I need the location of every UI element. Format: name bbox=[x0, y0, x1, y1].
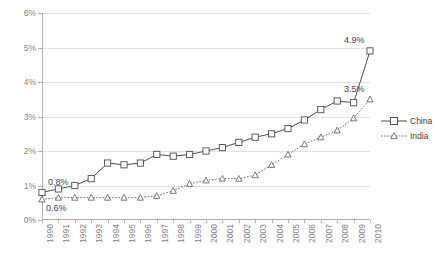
data-point-marker bbox=[367, 48, 373, 54]
data-point-marker bbox=[137, 160, 143, 166]
series-china bbox=[39, 48, 373, 196]
data-point-marker bbox=[285, 151, 291, 157]
data-point-marker bbox=[269, 131, 275, 137]
data-label: 3.5% bbox=[344, 85, 365, 94]
data-point-marker bbox=[351, 100, 357, 106]
series-line bbox=[42, 51, 370, 192]
legend-item-india[interactable]: India bbox=[381, 128, 437, 143]
legend: China India bbox=[381, 113, 437, 143]
data-point-marker bbox=[121, 162, 127, 168]
data-point-marker bbox=[154, 151, 160, 157]
data-point-marker bbox=[105, 160, 111, 166]
data-point-marker bbox=[187, 151, 193, 157]
series-layer bbox=[0, 0, 437, 265]
data-point-marker bbox=[334, 98, 340, 104]
data-point-marker bbox=[203, 177, 209, 183]
data-point-marker bbox=[170, 187, 176, 193]
data-point-marker bbox=[170, 153, 176, 159]
data-point-marker bbox=[219, 144, 225, 150]
data-point-marker bbox=[203, 148, 209, 154]
data-point-marker bbox=[269, 162, 275, 168]
data-point-marker bbox=[39, 189, 45, 195]
data-point-marker bbox=[236, 139, 242, 145]
india-line-swatch-icon bbox=[381, 131, 407, 141]
data-point-marker bbox=[301, 117, 307, 123]
data-point-marker bbox=[187, 181, 193, 187]
data-point-marker bbox=[367, 96, 373, 102]
data-point-marker bbox=[318, 107, 324, 113]
line-chart: 0%1%2%3%4%5%6%19901991199219931994199519… bbox=[0, 0, 437, 265]
data-point-marker bbox=[39, 196, 45, 202]
data-label: 0.6% bbox=[46, 204, 67, 213]
data-point-marker bbox=[334, 127, 340, 133]
china-line-swatch-icon bbox=[381, 116, 407, 126]
data-label: 4.9% bbox=[344, 36, 365, 45]
data-label: 0.8% bbox=[48, 178, 69, 187]
data-point-marker bbox=[318, 134, 324, 140]
data-point-marker bbox=[301, 141, 307, 147]
data-point-marker bbox=[72, 194, 78, 200]
data-point-marker bbox=[252, 172, 258, 178]
data-point-marker bbox=[154, 193, 160, 199]
data-point-marker bbox=[55, 194, 61, 200]
data-point-marker bbox=[285, 125, 291, 131]
data-point-marker bbox=[252, 134, 258, 140]
data-point-marker bbox=[88, 176, 94, 182]
legend-label-india: India bbox=[410, 131, 428, 141]
legend-item-china[interactable]: China bbox=[381, 113, 437, 128]
data-point-marker bbox=[219, 175, 225, 181]
legend-label-china: China bbox=[410, 116, 432, 126]
data-point-marker bbox=[72, 182, 78, 188]
